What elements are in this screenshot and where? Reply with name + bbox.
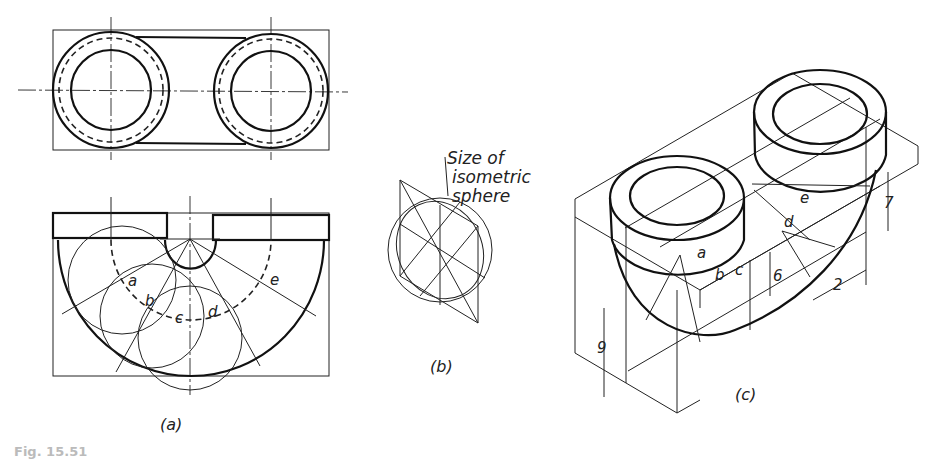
note-line-1: Size of: [447, 148, 507, 168]
panel-a-top-view: [18, 17, 348, 160]
panel-label-b: (b): [430, 357, 453, 376]
arc-label-d: d: [208, 303, 218, 321]
note-line-2: isometric: [452, 167, 531, 187]
point-label-c: c: [735, 261, 744, 279]
panel-a-front-view: a b c d e: [53, 196, 329, 395]
arc-label-e: e: [270, 271, 279, 289]
dimension-6: 6: [773, 267, 783, 285]
point-label-b: b: [715, 266, 725, 284]
panel-label-c: (c): [735, 385, 756, 404]
point-label-d: d: [784, 213, 794, 231]
dimension-2: 2: [833, 276, 843, 294]
note-line-3: sphere: [452, 186, 510, 206]
point-label-e: e: [800, 189, 809, 207]
dimension-9: 9: [597, 339, 607, 357]
dimension-7: 7: [884, 194, 894, 212]
arc-label-a: a: [128, 272, 137, 290]
figure-caption: Fig. 15.51: [14, 444, 87, 459]
arc-label-b: b: [145, 292, 155, 310]
arc-label-c: c: [175, 309, 184, 327]
panel-label-a: (a): [160, 415, 182, 434]
panel-c-isometric-view: a b c d e 9 6 7 2: [575, 70, 918, 413]
point-label-a: a: [697, 244, 706, 262]
